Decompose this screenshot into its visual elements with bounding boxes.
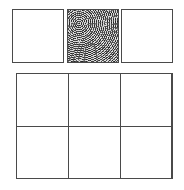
grid-cell-r1c3 [120, 73, 173, 127]
grid-cell-r1c2 [68, 73, 121, 127]
top-tile-1 [12, 9, 64, 63]
grid-cell-r2c2 [68, 126, 121, 179]
top-tile-2 [67, 9, 119, 63]
grid-cell-r2c3 [120, 126, 173, 179]
grid-cell-r1c1 [16, 73, 69, 127]
pattern-figure [0, 0, 184, 190]
grid-cell-r2c1 [16, 126, 69, 179]
top-tile-3 [121, 9, 173, 63]
